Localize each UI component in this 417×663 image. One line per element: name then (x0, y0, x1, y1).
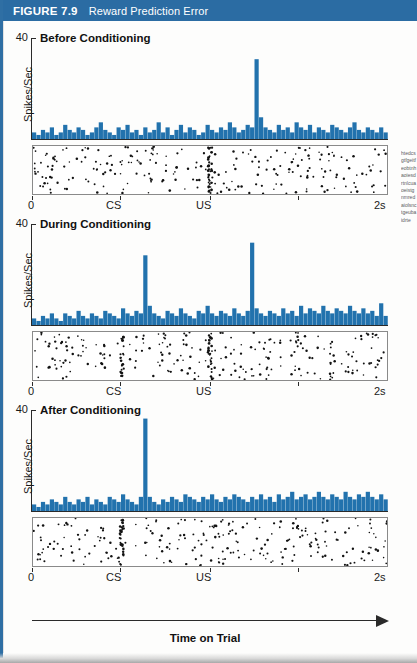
x-label-cs: CS (106, 571, 121, 583)
time-axis-arrow-group: Time on Trial (0, 610, 417, 650)
histogram-svg (32, 411, 388, 512)
raster-after (32, 517, 388, 567)
x-tick-mid (298, 568, 299, 572)
x-label-us: US (196, 571, 211, 583)
y-max-label: 40 (8, 217, 28, 229)
figure-page: FIGURE 7.9 Reward Prediction Error 40 Sp… (0, 0, 417, 663)
x-axis-line (31, 139, 388, 140)
arrow-head-icon (376, 615, 389, 627)
x-label-2s: 2s (374, 571, 386, 583)
histogram-svg (32, 225, 388, 326)
histogram-svg (32, 39, 388, 140)
x-axis-line (31, 511, 388, 512)
time-on-trial-label: Time on Trial (0, 632, 410, 644)
panel-before-conditioning: 40 Spikes/Sec Before Conditioning 0 CS U… (0, 0, 417, 215)
panel-after-conditioning: 40 Spikes/Sec After Conditioning 0 CS US… (0, 372, 417, 587)
histogram-during (32, 225, 388, 326)
x-label-0: 0 (28, 571, 34, 583)
raster-svg (33, 518, 387, 566)
page-bottom-shadow (0, 653, 417, 663)
adjacent-caption-sliver: htedcsgtfgeitfeobtnhaoiesdrtnlcuaoeistgn… (401, 150, 417, 500)
arrow-line (32, 620, 380, 621)
y-max-label: 40 (8, 403, 28, 415)
x-axis-line (31, 325, 388, 326)
y-max-label: 40 (8, 31, 28, 43)
histogram-before (32, 39, 388, 140)
panel-during-conditioning: 40 Spikes/Sec During Conditioning 0 CS U… (0, 186, 417, 401)
histogram-after (32, 411, 388, 512)
